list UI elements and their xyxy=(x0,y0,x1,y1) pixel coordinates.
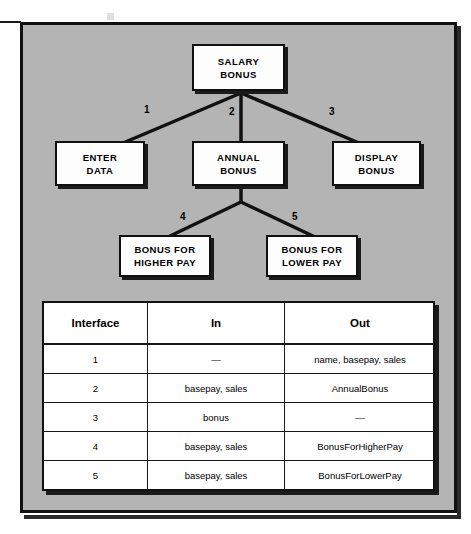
panel-drop-shadow-bottom xyxy=(24,515,461,519)
cell-interface: 2 xyxy=(44,374,148,403)
cell-out: — xyxy=(285,403,436,432)
cell-in: bonus xyxy=(148,403,285,432)
cell-out: AnnualBonus xyxy=(285,374,436,403)
edge-label-2: 2 xyxy=(229,106,235,117)
node-salary-bonus-line1: SALARY xyxy=(218,55,259,68)
interface-table-head: Interface In Out xyxy=(44,303,435,344)
edge-label-5: 5 xyxy=(292,211,298,222)
node-bonus-higher-pay-line1: BONUS FOR xyxy=(134,243,195,256)
cell-out: BonusForLowerPay xyxy=(285,461,436,490)
scan-artifact-mark xyxy=(107,13,114,20)
node-salary-bonus-line2: BONUS xyxy=(220,68,257,81)
cell-interface: 5 xyxy=(44,461,148,490)
node-enter-data-line1: ENTER xyxy=(83,151,117,164)
edge-label-4: 4 xyxy=(180,211,186,222)
edge-label-1: 1 xyxy=(144,104,150,115)
node-bonus-lower-pay[interactable]: BONUS FOR LOWER PAY xyxy=(266,235,358,277)
node-salary-bonus[interactable]: SALARY BONUS xyxy=(192,44,285,91)
node-enter-data[interactable]: ENTER DATA xyxy=(55,141,145,186)
node-annual-bonus-line1: ANNUAL xyxy=(217,151,260,164)
node-display-bonus-line1: DISPLAY xyxy=(355,151,398,164)
cell-in: basepay, sales xyxy=(148,432,285,461)
table-row: 4 basepay, sales BonusForHigherPay xyxy=(44,432,435,461)
interface-table: Interface In Out 1 — name, basepay, sale… xyxy=(44,303,435,489)
page-margin-rule xyxy=(0,21,21,23)
node-enter-data-line2: DATA xyxy=(87,164,114,177)
edge-label-3: 3 xyxy=(329,106,335,117)
cell-interface: 4 xyxy=(44,432,148,461)
interface-table-body: 1 — name, basepay, sales 2 basepay, sale… xyxy=(44,344,435,489)
table-header-row: Interface In Out xyxy=(44,303,435,344)
table-row: 2 basepay, sales AnnualBonus xyxy=(44,374,435,403)
cell-in: — xyxy=(148,344,285,374)
cell-out: name, basepay, sales xyxy=(285,344,436,374)
figure-panel: SALARY BONUS ENTER DATA ANNUAL BONUS DIS… xyxy=(20,22,457,513)
node-bonus-lower-pay-line2: LOWER PAY xyxy=(282,256,342,269)
node-bonus-higher-pay[interactable]: BONUS FOR HIGHER PAY xyxy=(119,235,211,277)
cell-interface: 1 xyxy=(44,344,148,374)
node-annual-bonus[interactable]: ANNUAL BONUS xyxy=(192,141,285,186)
cell-interface: 3 xyxy=(44,403,148,432)
node-bonus-lower-pay-line1: BONUS FOR xyxy=(281,243,342,256)
column-header-interface: Interface xyxy=(44,303,148,344)
interface-table-card: Interface In Out 1 — name, basepay, sale… xyxy=(42,301,435,491)
table-row: 5 basepay, sales BonusForLowerPay xyxy=(44,461,435,490)
node-annual-bonus-line2: BONUS xyxy=(220,164,257,177)
column-header-out: Out xyxy=(285,303,436,344)
cell-in: basepay, sales xyxy=(148,461,285,490)
node-bonus-higher-pay-line2: HIGHER PAY xyxy=(134,256,196,269)
cell-out: BonusForHigherPay xyxy=(285,432,436,461)
node-display-bonus[interactable]: DISPLAY BONUS xyxy=(332,141,421,186)
column-header-in: In xyxy=(148,303,285,344)
structure-chart-diagram: SALARY BONUS ENTER DATA ANNUAL BONUS DIS… xyxy=(23,25,460,295)
table-row: 1 — name, basepay, sales xyxy=(44,344,435,374)
node-display-bonus-line2: BONUS xyxy=(358,164,395,177)
table-row: 3 bonus — xyxy=(44,403,435,432)
cell-in: basepay, sales xyxy=(148,374,285,403)
